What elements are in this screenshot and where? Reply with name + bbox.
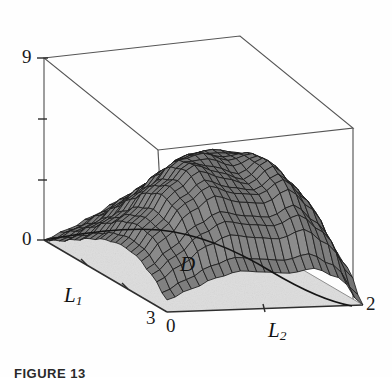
l2-axis-end-label: 2 — [366, 294, 376, 313]
z-axis-min-label: 0 — [22, 229, 32, 248]
l2-axis-title: L2 — [268, 320, 286, 342]
l1-axis-end-label: 3 — [146, 308, 156, 327]
l2-axis-title-subscript: 2 — [280, 328, 287, 343]
l2-axis-start-label: 0 — [166, 316, 176, 335]
figure-caption: FIGURE 13 — [14, 366, 86, 381]
box-top-face — [44, 36, 353, 150]
region-d-label: D — [180, 254, 195, 275]
l2-axis-title-base: L — [268, 318, 280, 342]
l1-axis-title: L1 — [64, 285, 82, 307]
z-axis-max-label: 9 — [22, 47, 32, 66]
l1-axis-title-base: L — [64, 283, 76, 307]
l1-axis-title-subscript: 1 — [76, 293, 83, 308]
